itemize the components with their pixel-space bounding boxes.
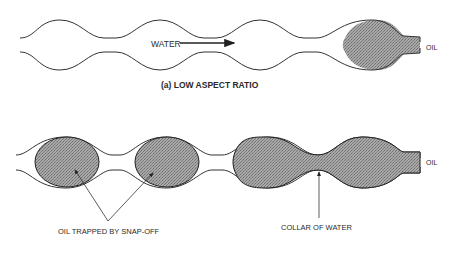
pore-diagram: WATER OIL (a) LOW ASPECT RATIO OIL OIL T… [0, 0, 450, 257]
trapped-oil-blob-1 [35, 137, 99, 187]
snapoff-leader-2 [108, 173, 153, 221]
collar-annotation: COLLAR OF WATER [281, 223, 352, 232]
trapped-oil-blob-2 [135, 137, 199, 187]
continuous-oil-with-collar [233, 137, 420, 188]
panel-a-caption: (a) LOW ASPECT RATIO [161, 80, 259, 90]
oil-label-a: OIL [426, 44, 437, 51]
oil-blob-panel-a [343, 20, 420, 70]
panel-a-low-aspect-ratio: WATER OIL (a) LOW ASPECT RATIO [20, 20, 437, 90]
oil-label-b: OIL [426, 159, 437, 166]
snapoff-annotation: OIL TRAPPED BY SNAP-OFF [58, 227, 160, 236]
panel-b-snap-off: OIL OIL TRAPPED BY SNAP-OFF COLLAR OF WA… [16, 137, 437, 236]
water-label: WATER [151, 39, 181, 49]
